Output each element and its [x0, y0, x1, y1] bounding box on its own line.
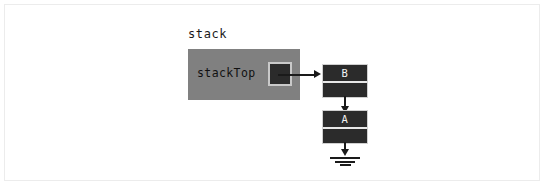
node-a-link-cell [323, 129, 367, 143]
node-a-data: A [323, 111, 367, 129]
arrow-stacktop-to-b-head [314, 70, 321, 78]
stacktop-field-label: stackTop [197, 66, 256, 80]
arrow-stacktop-to-b-line [278, 74, 316, 76]
node-b-data: B [323, 65, 367, 83]
node-b-link-cell [323, 83, 367, 97]
ground-icon [330, 157, 360, 169]
arrow-a-to-null-head [341, 149, 349, 156]
ground-bar-1 [330, 157, 360, 159]
diagram-canvas: stack stackTop B A [0, 0, 546, 187]
list-node-a: A [322, 110, 368, 144]
list-node-b: B [322, 64, 368, 98]
stack-caption: stack [188, 27, 227, 41]
ground-bar-3 [340, 164, 351, 166]
ground-bar-2 [335, 161, 355, 163]
